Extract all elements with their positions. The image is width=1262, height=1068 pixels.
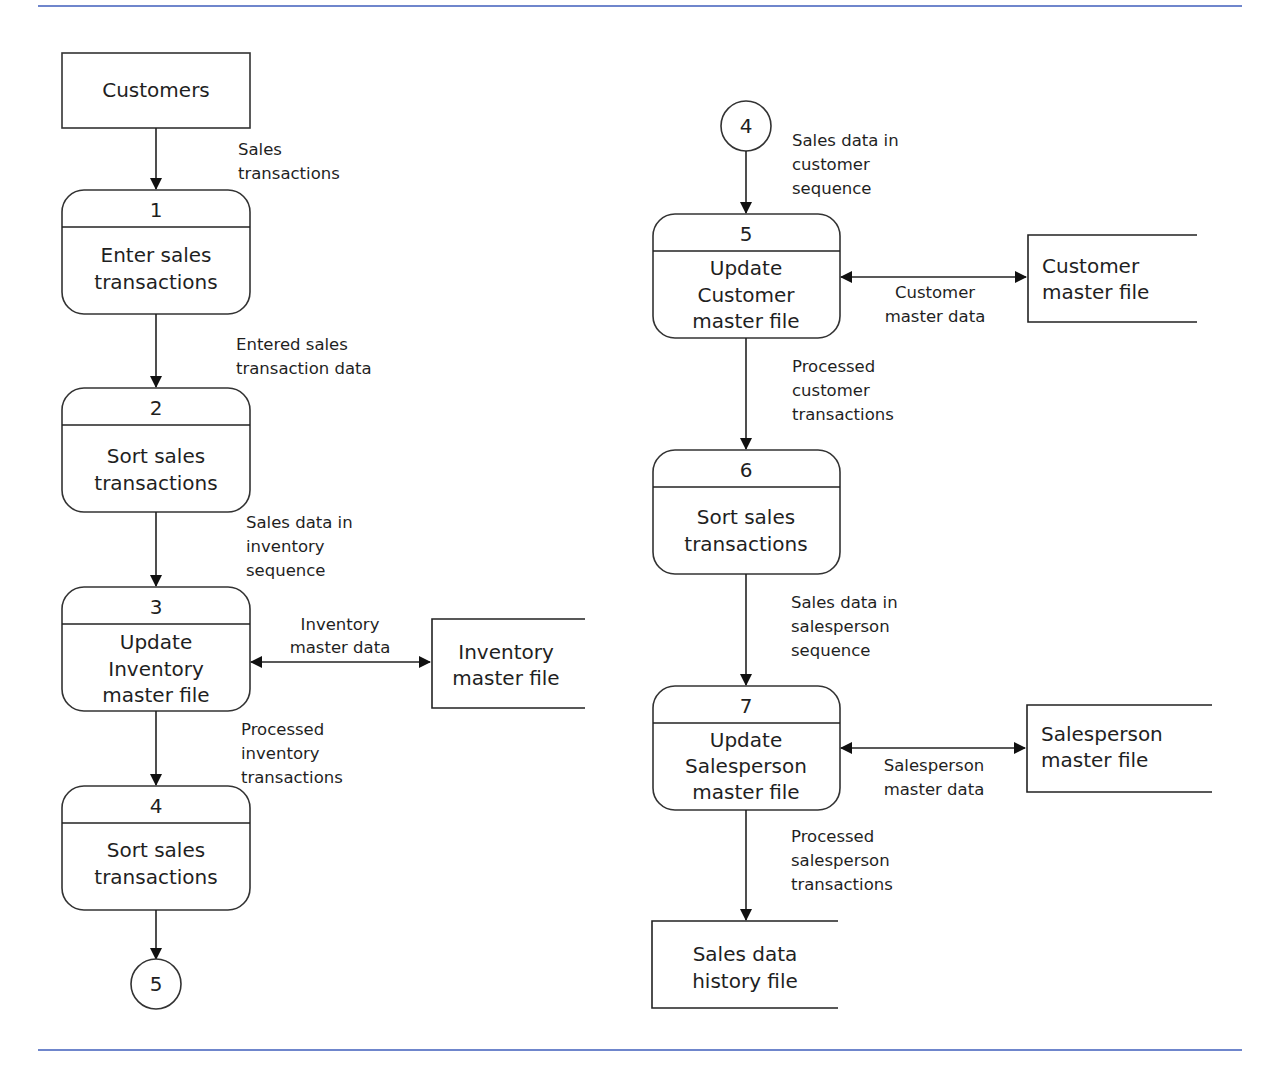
svg-text:transactions: transactions	[684, 532, 807, 556]
svg-text:Salesperson: Salesperson	[884, 756, 984, 775]
svg-text:Sales: Sales	[238, 140, 282, 159]
svg-text:Sort sales: Sort sales	[107, 838, 205, 862]
data-flow-diagram: Customers Sales transactions 1 Enter sal…	[0, 0, 1262, 1068]
svg-text:salesperson: salesperson	[791, 617, 890, 636]
connector-5: 5	[131, 959, 181, 1009]
svg-text:Entered sales: Entered sales	[236, 335, 348, 354]
svg-text:master file: master file	[692, 780, 799, 804]
process-2-sort-sales-transactions: 2 Sort sales transactions	[62, 388, 250, 512]
flow-processed-inventory-transactions: Processed inventory transactions	[156, 711, 343, 787]
svg-text:transactions: transactions	[792, 405, 894, 424]
process-3-update-inventory-master-file: 3 Update Inventory master file	[62, 587, 250, 711]
svg-text:master file: master file	[452, 666, 559, 690]
svg-text:sequence: sequence	[791, 641, 871, 660]
svg-text:Enter sales: Enter sales	[101, 243, 212, 267]
flow-sales-data-customer-sequence: Sales data in customer sequence	[746, 131, 899, 213]
svg-text:transactions: transactions	[238, 164, 340, 183]
svg-text:sequence: sequence	[792, 179, 872, 198]
flow-inventory-master-data: Inventory master data	[251, 615, 430, 662]
svg-text:transactions: transactions	[94, 865, 217, 889]
svg-text:Sales data in: Sales data in	[792, 131, 899, 150]
flow-processed-customer-transactions: Processed customer transactions	[746, 338, 894, 449]
svg-text:sequence: sequence	[246, 561, 326, 580]
process-number: 6	[740, 458, 753, 482]
process-number: 7	[740, 694, 753, 718]
svg-text:5: 5	[150, 972, 163, 996]
svg-text:salesperson: salesperson	[791, 851, 890, 870]
flow-entered-sales-transaction-data: Entered sales transaction data	[156, 314, 372, 387]
flow-customer-master-data: Customer master data	[841, 277, 1026, 326]
process-number: 4	[150, 794, 163, 818]
data-store-customer-master-file: Customer master file	[1028, 235, 1197, 322]
external-entity-customers: Customers	[62, 53, 250, 128]
svg-text:Sales data in: Sales data in	[246, 513, 353, 532]
svg-text:Processed: Processed	[241, 720, 324, 739]
svg-text:4: 4	[740, 114, 753, 138]
svg-text:transactions: transactions	[241, 768, 343, 787]
svg-text:Update: Update	[710, 256, 782, 280]
svg-text:Customer: Customer	[895, 283, 975, 302]
flow-salesperson-master-data: Salesperson master data	[841, 748, 1025, 799]
svg-text:Inventory: Inventory	[108, 657, 204, 681]
svg-text:Customer: Customer	[1042, 254, 1140, 278]
entity-label: Customers	[102, 78, 210, 102]
process-7-update-salesperson-master-file: 7 Update Salesperson master file	[653, 686, 840, 810]
svg-text:transactions: transactions	[791, 875, 893, 894]
flow-sales-data-inventory-sequence: Sales data in inventory sequence	[156, 512, 353, 586]
flow-sales-transactions: Sales transactions	[156, 128, 340, 189]
connector-4: 4	[721, 101, 771, 151]
svg-text:Sort sales: Sort sales	[107, 444, 205, 468]
svg-text:Sales data in: Sales data in	[791, 593, 898, 612]
svg-text:customer: customer	[792, 155, 870, 174]
svg-text:inventory: inventory	[241, 744, 320, 763]
svg-text:history file: history file	[692, 969, 798, 993]
svg-text:Processed: Processed	[792, 357, 875, 376]
process-6-sort-sales-transactions: 6 Sort sales transactions	[653, 450, 840, 574]
process-4-sort-sales-transactions: 4 Sort sales transactions	[62, 786, 250, 910]
svg-text:transaction data: transaction data	[236, 359, 372, 378]
svg-text:inventory: inventory	[246, 537, 325, 556]
process-number: 1	[150, 198, 163, 222]
svg-text:Sales data: Sales data	[693, 942, 798, 966]
process-number: 5	[740, 222, 753, 246]
svg-text:master data: master data	[885, 307, 986, 326]
svg-text:master file: master file	[1041, 748, 1148, 772]
process-5-update-customer-master-file: 5 Update Customer master file	[653, 214, 840, 338]
svg-text:master file: master file	[692, 309, 799, 333]
svg-text:Sort sales: Sort sales	[697, 505, 795, 529]
svg-text:transactions: transactions	[94, 471, 217, 495]
svg-text:transactions: transactions	[94, 270, 217, 294]
data-store-inventory-master-file: Inventory master file	[432, 619, 585, 708]
svg-text:customer: customer	[792, 381, 870, 400]
svg-text:master data: master data	[290, 638, 391, 657]
svg-text:Update: Update	[120, 630, 192, 654]
flow-processed-salesperson-transactions: Processed salesperson transactions	[746, 810, 893, 920]
data-store-salesperson-master-file: Salesperson master file	[1027, 705, 1212, 792]
process-number: 2	[150, 396, 163, 420]
process-1-enter-sales-transactions: 1 Enter sales transactions	[62, 190, 250, 314]
svg-text:Update: Update	[710, 728, 782, 752]
data-store-sales-data-history-file: Sales data history file	[652, 921, 838, 1008]
svg-text:master file: master file	[102, 683, 209, 707]
svg-text:master file: master file	[1042, 280, 1149, 304]
svg-text:Salesperson: Salesperson	[1041, 722, 1163, 746]
svg-text:Processed: Processed	[791, 827, 874, 846]
svg-text:Salesperson: Salesperson	[685, 754, 807, 778]
svg-text:Inventory: Inventory	[458, 640, 554, 664]
svg-text:Inventory: Inventory	[301, 615, 380, 634]
flow-sales-data-salesperson-sequence: Sales data in salesperson sequence	[746, 574, 898, 685]
svg-text:Customer: Customer	[697, 283, 795, 307]
process-number: 3	[150, 595, 163, 619]
svg-text:master data: master data	[884, 780, 985, 799]
